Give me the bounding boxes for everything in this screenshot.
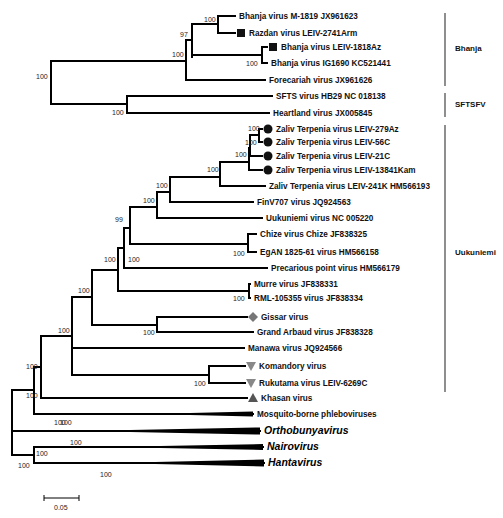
bootstrap-value: 100 [26,363,38,370]
collapsed-clade-wedge [155,460,264,467]
taxon-label: FinV707 virus JQ924563 [257,198,351,207]
bootstrap-value: 100 [26,392,38,399]
taxon-label: Manawa virus JQ924566 [248,344,343,353]
clade-bracket-uukuniemi: Uukuniemi [445,125,496,392]
taxon-label: Zaliv Terpenia virus LEIV-21C [276,152,390,161]
bootstrap-value: 100 [143,329,155,336]
taxon-label: EgAN 1825-61 virus HM566158 [260,248,379,257]
bootstrap-value: 100 [18,462,30,469]
taxon-label: Murre virus JF838331 [254,280,338,289]
taxon-label: Zaliv Terpenia virus LEIV-56C [276,138,390,147]
circle-marker-icon [264,166,273,175]
bootstrap-value: 100 [172,51,184,58]
triangle-down-marker-icon [246,379,256,388]
tree-branches [12,16,272,463]
square-marker-icon [237,29,245,37]
taxon-label: Khasan virus [261,394,313,403]
taxon-label: Zaliv Terpenia virus LEIV-279Az [276,125,399,134]
bootstrap-value: 97 [180,31,188,38]
bootstrap-value: 100 [233,295,245,302]
bootstrap-value: 100 [112,109,124,116]
circle-marker-icon [264,152,273,161]
bootstrap-values: 1001009710010010010010010010010010010099… [18,16,260,478]
taxon-labels: Bhanja virus M-1819 JX961623Razdan virus… [239,12,430,468]
taxon-label: Razdan virus LEIV-2741Arm [249,29,357,38]
scale-bar-label: 0.05 [54,504,68,511]
taxon-label: Grand Arbaud virus JF838328 [257,328,373,337]
bootstrap-value: 100 [70,439,82,446]
bootstrap-value: 100 [207,166,219,173]
diamond-marker-icon [248,312,258,322]
taxon-label: Chize virus Chize JF838325 [260,230,367,239]
bootstrap-value: 100 [204,16,216,23]
scale-bar: 0.05 [44,495,79,511]
clade-label-bhanja: Bhanja [455,44,482,53]
bootstrap-value: 100 [78,287,90,294]
circle-marker-icon [264,138,273,147]
clade-label-sftsfv: SFTSFV [455,100,486,109]
bootstrap-value: 100 [36,73,48,80]
bootstrap-value: 100 [104,256,116,263]
bootstrap-value: 100 [248,125,260,132]
clade-label-uukuniemi: Uukuniemi [455,248,496,257]
taxon-label: Gissar virus [261,313,309,322]
taxon-label: Uukuniemi virus NC 005220 [266,214,374,223]
clade-bracket-sftsfv: SFTSFV [445,93,486,117]
collapsed-clade-wedge [130,428,260,435]
bootstrap-value: 100 [60,419,72,426]
taxon-label: Heartland virus JX005845 [273,109,373,118]
bootstrap-value: 100 [156,182,168,189]
taxon-label: SFTS virus HB29 NC 018138 [276,92,386,101]
bootstrap-value: 100 [233,250,245,257]
taxon-label: Zaliv Terpenia virus LEIV-13841Kam [276,166,416,175]
taxon-label: Orthobunyavirus [264,424,349,436]
taxon-label: Forecariah virus JX961626 [269,76,373,85]
bootstrap-value: 100 [246,60,258,67]
clade-bracket-bhanja: Bhanja [445,13,482,86]
collapsed-clade-wedges [130,412,264,467]
taxon-label: Bhanja virus M-1819 JX961623 [239,12,358,21]
bootstrap-value: 100 [36,450,48,457]
bootstrap-value: 100 [58,327,70,334]
taxon-label: RML-105355 virus JF838334 [254,294,363,303]
taxon-label: Zaliv Terpenia virus LEIV-241K HM566193 [269,182,430,191]
circle-marker-icon [264,125,273,134]
bootstrap-value: 100 [235,151,247,158]
collapsed-clade-wedge [190,412,253,417]
taxon-label: Nairovirus [267,440,319,452]
triangle-up-marker-icon [248,393,258,402]
taxon-label: Hantavirus [268,456,322,468]
taxon-label: Bhanja virus IG1690 KC521441 [271,59,391,68]
taxon-label: Rukutama virus LEIV-6269C [259,379,367,388]
bootstrap-value: 100 [143,197,155,204]
bootstrap-value: 100 [100,471,112,478]
collapsed-clade-wedge [160,444,263,450]
taxon-label: Komandory virus [259,362,327,371]
bootstrap-value: 100 [128,256,140,263]
bootstrap-value: 100 [245,139,257,146]
triangle-down-marker-icon [246,362,256,371]
bootstrap-value: 99 [115,216,123,223]
taxon-label: Mosquito-borne phleboviruses [257,410,377,419]
phylogenetic-tree: Bhanja virus M-1819 JX961623Razdan virus… [0,0,503,518]
taxon-label: Bhanja virus LEIV-1818Az [281,43,381,52]
square-marker-icon [269,43,277,51]
taxon-label: Precarious point virus HM566179 [271,264,400,273]
bootstrap-value: 100 [194,380,206,387]
